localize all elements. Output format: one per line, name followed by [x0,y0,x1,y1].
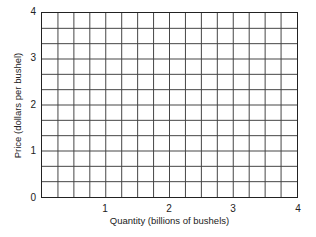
plot-area [41,12,298,198]
x-tick-3: 3 [223,203,243,214]
x-tick-4: 4 [288,203,308,214]
y-tick-4: 4 [22,6,36,17]
x-tick-2: 2 [159,203,179,214]
x-axis-label: Quantity (billions of bushels) [41,215,298,226]
y-axis-label: Price (dollars per bushel) [12,21,23,191]
grid-lines [42,13,297,197]
x-tick-1: 1 [95,203,115,214]
y-tick-0: 0 [22,192,36,203]
y-tick-2: 2 [22,99,36,110]
y-tick-3: 3 [22,52,36,63]
y-tick-1: 1 [22,145,36,156]
